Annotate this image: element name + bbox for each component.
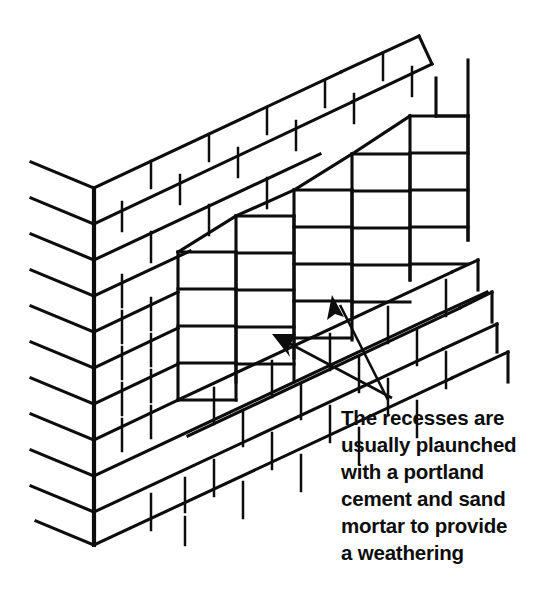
brick-recess-figure: The recesses are usually plaunched with … [0,0,553,614]
caption-line-6: a weathering [341,539,546,566]
right-face-perpends-lower-left [122,311,151,451]
recess-panel-right-termination [436,60,468,240]
left-face-courses [31,162,94,545]
caption-line-3: with a portland [341,458,546,485]
wall-top-cap [341,36,432,102]
right-face-perpends-fourth [122,275,151,330]
right-face-perpends-top [151,53,383,188]
caption-line-2: usually plaunched [341,431,546,458]
caption-line-4: cement and sand [341,485,546,512]
recess-annotation-caption: The recesses are usually plaunched with … [341,404,546,566]
caption-line-5: mortar to provide [341,512,546,539]
recess-column-2 [236,216,294,382]
right-face-perpends-third [151,178,267,262]
recess-column-4 [352,154,410,316]
caption-line-1: The recesses are [341,404,546,431]
recess-column-5 [410,116,468,280]
